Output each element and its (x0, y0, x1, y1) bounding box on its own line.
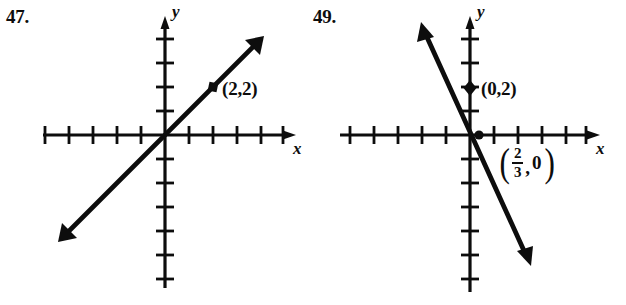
point-label-0-2: (0,2) (481, 78, 516, 100)
y-axis-arrowhead (161, 16, 170, 29)
x-axis-label: x (596, 139, 605, 159)
y-axis-label: y (477, 2, 485, 22)
line-arrowhead-upper (417, 22, 434, 42)
figure-49: 49. (313, 0, 626, 305)
point-label-2-2: (2,2) (222, 78, 257, 100)
y-axis-arrowhead (466, 16, 475, 29)
fraction-numerator: 2 (513, 146, 523, 161)
x-axis-label: x (293, 139, 302, 159)
plotted-point-marker (208, 82, 219, 93)
line-arrowhead-lower (517, 246, 533, 266)
y-axis-label: y (172, 2, 180, 22)
fraction-denominator: 3 (513, 165, 523, 180)
paren-open: ( (499, 147, 509, 180)
figure-47: 47. (0, 0, 313, 305)
coordinate-plane-47 (0, 0, 313, 305)
graph-line-49 (417, 22, 533, 266)
fraction-two-thirds: 2 3 (512, 146, 523, 181)
exercise-figure-pair: 47. (0, 0, 626, 305)
graph-line-47 (58, 36, 264, 242)
paren-close: ) (544, 147, 554, 180)
coordinate-plane-49 (313, 0, 626, 305)
point-label-two-thirds-zero: ( 2 3 , 0 ) (498, 146, 556, 181)
label-comma: , (525, 157, 530, 181)
plotted-point-marker-xintercept (474, 130, 483, 139)
label-zero: 0 (532, 152, 542, 174)
plotted-point-marker-intercept (464, 80, 477, 96)
